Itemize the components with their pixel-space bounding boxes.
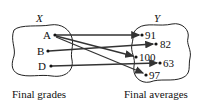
element-B: B: [37, 46, 44, 57]
point-91: [140, 33, 143, 36]
arrow-B-82: [49, 44, 153, 51]
set-x-caption: Final grades: [12, 89, 66, 100]
element-D: D: [38, 61, 46, 72]
set-y-name: Y: [154, 13, 160, 24]
arrow-D-63: [52, 63, 157, 66]
element-91: 91: [145, 30, 156, 41]
element-97: 97: [149, 70, 160, 81]
element-100: 100: [139, 52, 156, 63]
point-100: [134, 55, 137, 58]
element-82: 82: [160, 39, 171, 50]
element-A: A: [43, 30, 51, 41]
set-x-name: X: [36, 13, 43, 24]
point-97: [144, 73, 147, 76]
point-63: [158, 61, 161, 64]
point-82: [154, 42, 157, 45]
set-y-caption: Final averages: [124, 89, 188, 100]
element-63: 63: [163, 58, 174, 69]
